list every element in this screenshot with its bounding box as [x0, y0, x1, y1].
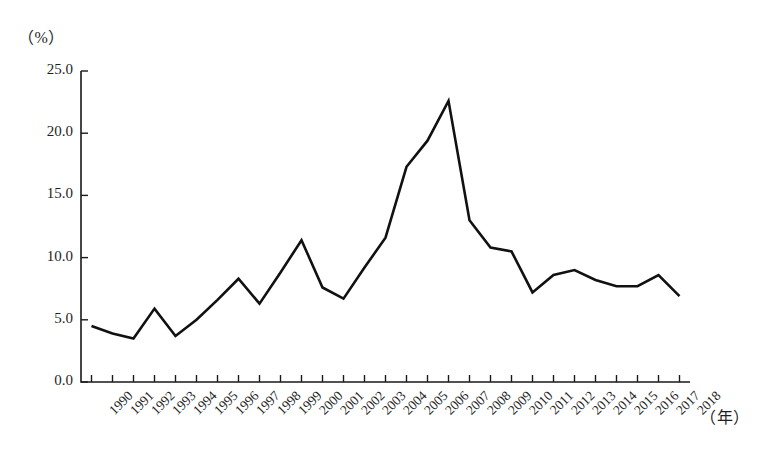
- y-axis-tick-label: 25.0: [21, 61, 73, 78]
- y-axis-tick-label: 10.0: [21, 248, 73, 265]
- y-axis-tick-label: 0.0: [21, 372, 73, 389]
- line-chart: （%） （年） 25.020.015.010.05.00.0 199019911…: [0, 0, 767, 455]
- y-axis-tick-label: 20.0: [21, 123, 73, 140]
- x-axis-tick-marks: [92, 375, 680, 382]
- y-axis-tick-label: 15.0: [21, 185, 73, 202]
- y-axis-tick-marks: [81, 71, 88, 382]
- chart-axes: [81, 71, 690, 382]
- series-line-path: [92, 101, 680, 339]
- data-series-group: [92, 101, 680, 339]
- plot-area: [0, 0, 767, 455]
- y-axis-tick-label: 5.0: [21, 310, 73, 327]
